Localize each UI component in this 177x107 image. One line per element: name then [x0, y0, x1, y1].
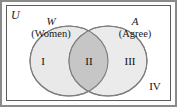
set-label-women: W (Women) — [20, 16, 82, 39]
set-name-women: (Women) — [20, 28, 82, 39]
region-label-iii: III — [117, 56, 143, 67]
set-symbol-a: A — [104, 16, 166, 28]
region-label-i: I — [32, 56, 54, 67]
universal-set-label: U — [11, 9, 20, 21]
venn-diagram-figure: U W (Women) A (Agree) I II III IV — [0, 0, 177, 107]
set-name-agree: (Agree) — [104, 28, 166, 39]
region-label-iv: IV — [144, 81, 166, 92]
set-label-agree: A (Agree) — [104, 16, 166, 39]
set-symbol-w: W — [20, 16, 82, 28]
region-label-ii: II — [77, 56, 101, 67]
